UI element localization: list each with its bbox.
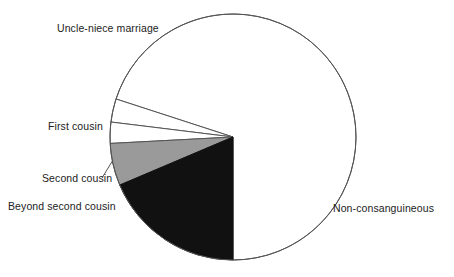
pie-label-beyond-second-cousin: Beyond second cousin	[8, 200, 116, 212]
pie-label-non-consanguineous: Non-consanguineous	[333, 202, 434, 214]
pie-label-first-cousin: First cousin	[48, 120, 103, 132]
pie-label-uncle-niece-marriage: Uncle-niece marriage	[57, 22, 159, 34]
pie-chart-canvas	[0, 0, 454, 277]
pie-chart: Uncle-niece marriage First cousin Second…	[0, 0, 454, 277]
pie-label-second-cousin: Second cousin	[42, 172, 112, 184]
